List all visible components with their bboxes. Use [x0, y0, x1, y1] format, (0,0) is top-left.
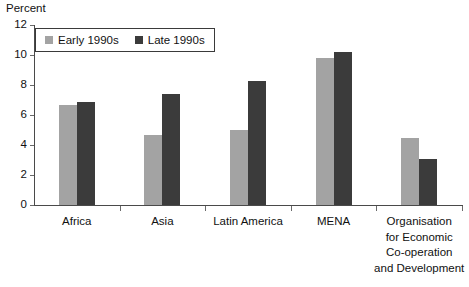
y-axis-tick-label: 12 [14, 17, 27, 31]
x-axis-tick-mark [291, 206, 292, 211]
bar-late [334, 52, 352, 205]
x-axis-tick-mark [205, 206, 206, 211]
y-axis-tick-label: 8 [21, 77, 27, 91]
x-axis-category-label-line: for Economic [370, 230, 468, 246]
legend-label-late: Late 1990s [148, 34, 205, 47]
bar-early [144, 135, 162, 206]
y-axis-tick: 10 [0, 55, 34, 56]
bar-late [248, 81, 266, 206]
x-axis-category-label-line: Asia [114, 214, 212, 230]
x-axis-line [34, 205, 463, 206]
legend-swatch-icon-early [45, 36, 53, 44]
bar-early [230, 130, 248, 205]
x-axis-category-label-line: and Development [370, 261, 468, 277]
y-axis-tick-label: 2 [21, 167, 27, 181]
x-axis-tick-mark [462, 206, 463, 211]
y-axis-tick-mark [30, 205, 34, 206]
bar-late [77, 102, 95, 206]
chart-legend: Early 1990s Late 1990s [35, 28, 215, 52]
bar-late [162, 94, 180, 205]
x-axis-category-label-line: MENA [285, 214, 383, 230]
y-axis-tick: 2 [0, 175, 34, 176]
x-axis-category-label: Latin America [199, 214, 297, 230]
bar-late [419, 159, 437, 206]
y-axis-tick-label: 10 [14, 47, 27, 61]
x-axis-category-label: Organisationfor EconomicCo-operationand … [370, 214, 468, 276]
bar-early [401, 138, 419, 206]
y-axis-tick-label: 0 [21, 197, 27, 211]
bar-early [59, 105, 77, 206]
legend-entry-late: Late 1990s [135, 34, 205, 47]
x-axis-category-label-line: Africa [28, 214, 126, 230]
y-axis-tick: 4 [0, 145, 34, 146]
x-axis-category-label: MENA [285, 214, 383, 230]
y-axis-tick-label: 4 [21, 137, 27, 151]
y-axis-tick-label: 6 [21, 107, 27, 121]
x-axis-category-label-line: Latin America [199, 214, 297, 230]
x-axis-category-label-line: Organisation [370, 214, 468, 230]
y-axis-tick: 6 [0, 115, 34, 116]
y-axis-tick: 0 [0, 205, 34, 206]
plot-area [34, 25, 462, 205]
x-axis-category-label: Africa [28, 214, 126, 230]
bar-early [316, 58, 334, 205]
x-axis-category-label: Asia [114, 214, 212, 230]
legend-swatch-icon-late [135, 36, 143, 44]
legend-entry-early: Early 1990s [45, 34, 119, 47]
x-axis-category-label-line: Co-operation [370, 245, 468, 261]
y-axis-tick: 12 [0, 25, 34, 26]
x-axis-tick-mark [120, 206, 121, 211]
y-axis-tick: 8 [0, 85, 34, 86]
bar-chart: Percent 121086420 AfricaAsiaLatin Americ… [0, 0, 469, 287]
x-axis-tick-mark [376, 206, 377, 211]
y-axis-title: Percent [6, 2, 46, 15]
legend-label-early: Early 1990s [58, 34, 119, 47]
